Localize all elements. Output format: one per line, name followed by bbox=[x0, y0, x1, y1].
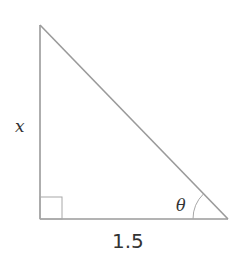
right-triangle-diagram: x θ 1.5 bbox=[0, 0, 240, 258]
angle-arc bbox=[193, 194, 204, 219]
angle-label: θ bbox=[176, 196, 186, 215]
vertical-side-label: x bbox=[15, 116, 25, 136]
hypotenuse bbox=[40, 25, 228, 219]
right-angle-marker bbox=[40, 197, 62, 219]
base-side-label: 1.5 bbox=[112, 229, 144, 253]
